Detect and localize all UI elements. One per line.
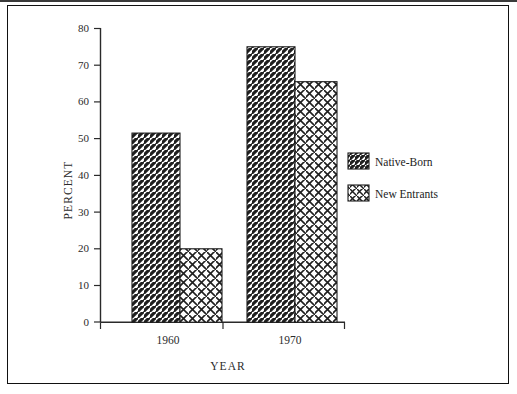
bar-new-entrants-1970: [295, 82, 337, 323]
bar-new-entrants-1960: [180, 249, 222, 322]
x-category-label: 1960: [157, 334, 180, 346]
x-axis-title: YEAR: [210, 360, 246, 372]
y-tick-label: 60: [78, 95, 90, 107]
y-tick-label: 50: [78, 132, 90, 144]
x-axis: 1960 1970 YEAR: [101, 322, 346, 372]
bar-chart: 80 70 60 50 40 30 20 10 0 PERCENT 1960 1…: [0, 0, 517, 394]
legend-swatch-new-entrants: [348, 185, 369, 201]
bar-native-born-1970: [247, 47, 295, 322]
y-tick-label: 80: [78, 22, 90, 34]
y-axis-ticks: [94, 29, 101, 323]
bar-group-1970: [247, 47, 337, 322]
y-axis-title: PERCENT: [62, 161, 74, 220]
bar-native-born-1960: [132, 133, 180, 322]
y-tick-label: 20: [78, 242, 90, 254]
legend: Native-Born New Entrants: [348, 153, 438, 201]
y-tick-label: 40: [78, 169, 90, 181]
y-tick-label: 30: [78, 206, 90, 218]
legend-label-native-born: Native-Born: [375, 156, 433, 168]
y-tick-label: 10: [78, 279, 90, 291]
y-axis: 80 70 60 50 40 30 20 10 0 PERCENT: [62, 22, 101, 328]
x-category-label: 1970: [279, 334, 302, 346]
legend-label-new-entrants: New Entrants: [375, 188, 438, 200]
y-axis-tick-labels: 80 70 60 50 40 30 20 10 0: [78, 22, 90, 328]
bar-group-1960: [132, 133, 222, 322]
y-tick-label: 0: [84, 316, 90, 328]
legend-swatch-native-born: [348, 153, 369, 169]
y-tick-label: 70: [78, 59, 90, 71]
figure-canvas: 80 70 60 50 40 30 20 10 0 PERCENT 1960 1…: [0, 0, 517, 394]
